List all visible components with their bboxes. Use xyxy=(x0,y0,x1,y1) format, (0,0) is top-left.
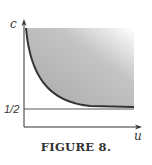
tick-label-half: 1/2 xyxy=(4,103,19,115)
figure-caption: FIGURE 8. xyxy=(0,140,152,154)
shaded-region xyxy=(26,28,134,107)
y-axis-label: c xyxy=(10,17,17,31)
